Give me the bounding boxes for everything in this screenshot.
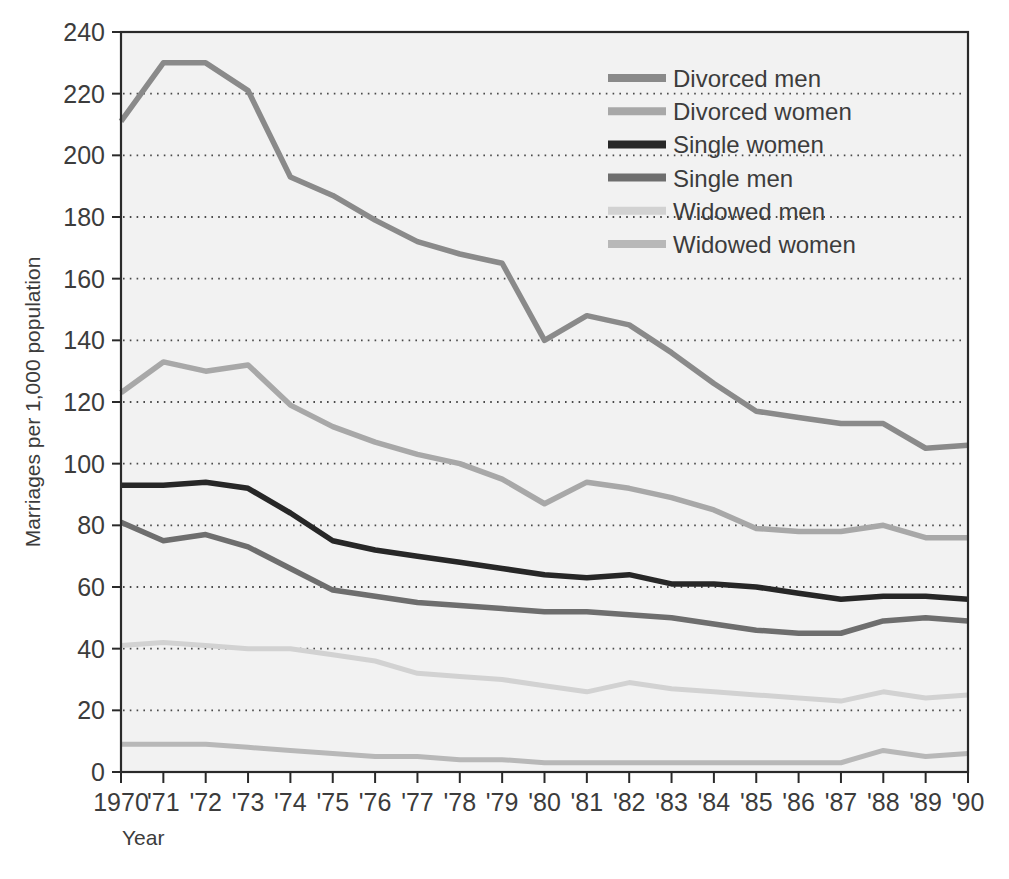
y-axis-tick-label: 140 <box>63 326 105 354</box>
x-axis-tick-label: '90 <box>952 788 985 816</box>
x-axis-tick-label: '78 <box>444 788 477 816</box>
x-axis-tick-label: '82 <box>613 788 646 816</box>
y-axis-tick-label: 60 <box>77 573 105 601</box>
x-axis-tick-label: '81 <box>571 788 604 816</box>
y-axis-tick-label: 40 <box>77 635 105 663</box>
legend-label: Single men <box>673 165 793 192</box>
y-axis-tick-label: 20 <box>77 696 105 724</box>
y-axis-tick-labels: 020406080100120140160180200220240 <box>63 18 105 786</box>
y-axis-tick-label: 200 <box>63 141 105 169</box>
y-axis-tick-label: 160 <box>63 265 105 293</box>
legend-label: Single women <box>673 131 824 158</box>
x-axis-tick-label: '83 <box>655 788 688 816</box>
x-axis-tick-label: '84 <box>698 788 731 816</box>
x-axis-tick-label: '87 <box>825 788 858 816</box>
y-axis-label: Marriages per 1,000 population <box>21 257 44 548</box>
legend-label: Divorced women <box>673 98 852 125</box>
x-axis-tick-label: '75 <box>316 788 349 816</box>
x-axis-label: Year <box>122 826 164 849</box>
x-axis-tick-label: '71 <box>147 788 180 816</box>
x-axis-tick-label: '88 <box>867 788 900 816</box>
x-axis-tick-label: 1970 <box>93 788 149 816</box>
plot-background <box>121 32 968 772</box>
y-axis-tick-label: 100 <box>63 450 105 478</box>
y-axis-ticks <box>112 32 121 772</box>
x-axis-tick-label: '76 <box>359 788 392 816</box>
y-axis-tick-label: 240 <box>63 18 105 46</box>
legend-label: Widowed women <box>673 231 856 258</box>
x-axis-tick-label: '86 <box>782 788 815 816</box>
x-axis-tick-label: '80 <box>528 788 561 816</box>
x-axis-tick-label: '79 <box>486 788 519 816</box>
legend-label: Widowed men <box>673 198 825 225</box>
line-chart: 020406080100120140160180200220240 1970'7… <box>0 0 1009 879</box>
x-axis-tick-label: '85 <box>740 788 773 816</box>
chart-figure: 020406080100120140160180200220240 1970'7… <box>0 0 1009 879</box>
y-axis-tick-label: 80 <box>77 511 105 539</box>
y-axis-tick-label: 180 <box>63 203 105 231</box>
x-axis-tick-label: '73 <box>232 788 265 816</box>
x-axis-ticks <box>121 772 968 783</box>
x-axis-tick-label: '77 <box>401 788 434 816</box>
x-axis-tick-labels: 1970'71'72'73'74'75'76'77'78'79'80'81'82… <box>93 788 984 816</box>
x-axis-tick-label: '89 <box>909 788 942 816</box>
x-axis-tick-label: '74 <box>274 788 307 816</box>
y-axis-tick-label: 120 <box>63 388 105 416</box>
y-axis-tick-label: 220 <box>63 80 105 108</box>
legend-label: Divorced men <box>673 65 821 92</box>
y-axis-tick-label: 0 <box>91 758 105 786</box>
x-axis-tick-label: '72 <box>189 788 222 816</box>
